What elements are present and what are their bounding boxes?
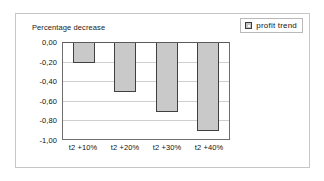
chart-container: Percentage decrease profit trend 0,00-0,… <box>15 13 310 168</box>
y-axis: 0,00-0,20-0,40-0,60-0,80-1,00 <box>16 42 61 140</box>
plot-wrapper: 0,00-0,20-0,40-0,60-0,80-1,00 t2 +10%t2 … <box>16 14 311 169</box>
bar-slot <box>105 43 147 139</box>
y-axis-tick-label: -0,60 <box>39 96 57 105</box>
bar-slot <box>188 43 230 139</box>
bar-series <box>63 43 229 139</box>
y-axis-tick-label: -0,80 <box>39 116 57 125</box>
x-axis-tick-label: t2 +20% <box>104 143 146 152</box>
y-axis-tick-label: -1,00 <box>39 136 57 145</box>
bar-slot <box>63 43 105 139</box>
x-axis: t2 +10%t2 +20%t2 +30%t2 +40% <box>62 143 230 152</box>
bar[interactable] <box>114 43 136 92</box>
bar[interactable] <box>73 43 95 63</box>
plot-area <box>62 42 230 140</box>
bar-slot <box>146 43 188 139</box>
y-axis-tick-label: -0,20 <box>39 57 57 66</box>
x-axis-tick-label: t2 +30% <box>146 143 188 152</box>
y-axis-tick-label: 0,00 <box>42 38 57 47</box>
x-axis-tick-label: t2 +40% <box>188 143 230 152</box>
y-axis-tick-label: -0,40 <box>39 77 57 86</box>
bar[interactable] <box>156 43 178 112</box>
bar[interactable] <box>197 43 219 131</box>
x-axis-tick-label: t2 +10% <box>62 143 104 152</box>
